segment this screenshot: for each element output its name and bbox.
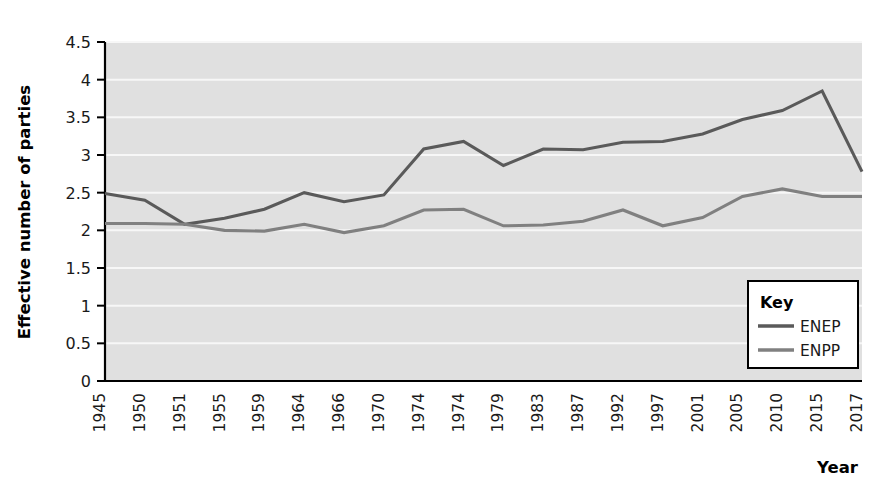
x-tick-label: 1987 [569,393,587,432]
x-tick-label: 1974 [450,393,468,432]
x-tick-labels: 1945195019511955195919641966197019741974… [91,393,866,432]
y-tick-label: 4.5 [66,33,91,52]
y-axis [97,42,105,381]
y-tick-label: 0 [81,372,91,391]
x-tick-label: 1951 [171,393,189,432]
x-tick-label: 1945 [91,393,109,432]
x-tick-label: 1992 [609,393,627,432]
y-tick-label: 0.5 [66,334,91,353]
x-tick-label: 1974 [410,393,428,432]
y-tick-label: 1 [81,297,91,316]
y-tick-label: 3 [81,146,91,165]
legend-label-enpp: ENPP [800,342,840,360]
x-axis-title: Year [816,458,859,477]
y-tick-label: 3.5 [66,108,91,127]
y-tick-label: 2.5 [66,184,91,203]
x-tick-label: 2017 [848,393,866,432]
x-tick-label: 2010 [768,393,786,432]
chart-container: 00.511.522.533.544.5 1945195019511955195… [0,0,890,486]
line-chart: 00.511.522.533.544.5 1945195019511955195… [0,0,890,486]
x-tick-label: 1979 [489,393,507,432]
y-tick-labels: 00.511.522.533.544.5 [66,33,91,391]
y-tick-label: 4 [81,71,91,90]
y-tick-label: 1.5 [66,259,91,278]
x-tick-label: 1950 [131,393,149,432]
x-tick-label: 1970 [370,393,388,432]
x-tick-label: 1997 [649,393,667,432]
x-tick-label: 1983 [529,393,547,432]
x-tick-label: 2015 [808,393,826,432]
x-tick-label: 2005 [728,393,746,432]
y-axis-title: Effective number of parties [15,85,34,339]
x-tick-label: 1955 [211,393,229,432]
x-tick-label: 1964 [290,393,308,432]
x-tick-label: 1959 [250,393,268,432]
y-tick-label: 2 [81,221,91,240]
legend[interactable]: Key ENEPENPP [748,281,858,368]
x-tick-label: 1966 [330,393,348,432]
legend-label-enep: ENEP [800,318,841,336]
legend-title: Key [760,293,794,312]
x-tick-label: 2001 [689,393,707,432]
